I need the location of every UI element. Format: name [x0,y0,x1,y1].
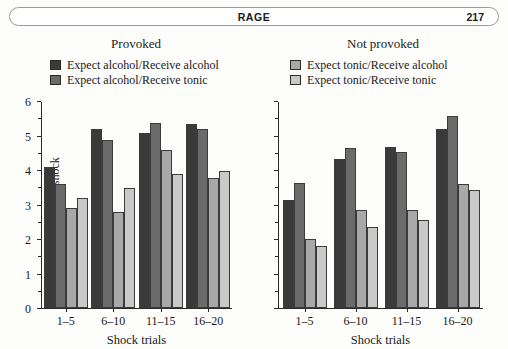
bar[interactable] [458,184,469,308]
y-tick-major [37,274,41,275]
y-tick-minor [275,187,278,188]
legend-item: Expect alcohol/Receive alcohol [50,58,219,72]
bar[interactable] [139,133,150,308]
bar[interactable] [283,200,294,308]
x-tick-label: 11–15 [146,314,176,329]
legend-item: Expect tonic/Receive tonic [290,73,448,87]
figure-bar-chart: Provoked Expect alcohol/Receive alcohol … [0,28,508,346]
bar[interactable] [418,220,429,308]
y-tick-label: 0 [25,303,31,315]
bar-group: 16–20 [436,102,480,308]
x-tick-label: 6–10 [101,314,125,329]
bar[interactable] [161,150,172,308]
y-tick-major [274,239,278,240]
x-tick-label: 11–15 [392,314,422,329]
bar[interactable] [44,167,55,308]
y-tick-minor [275,256,278,257]
x-tick [458,308,459,312]
bar-groups: 1–56–1011–1516–20 [42,102,232,308]
x-tick [66,308,67,312]
bar[interactable] [345,148,356,308]
y-tick-major [37,136,41,137]
legend-swatch-icon [50,75,61,85]
x-tick [305,308,306,312]
legend-item-label: Expect alcohol/Receive alcohol [67,58,219,72]
bar[interactable] [102,140,113,308]
bar[interactable] [356,210,367,308]
bar[interactable] [219,171,230,308]
y-tick-major [274,136,278,137]
y-tick-major [37,170,41,171]
bar-group: 6–10 [91,102,135,308]
legend-swatch-icon [290,60,301,70]
page-number: 217 [466,11,484,23]
y-tick-major [37,239,41,240]
y-tick-minor [275,291,278,292]
legend-item-label: Expect tonic/Receive alcohol [307,58,448,72]
y-tick-minor [38,187,41,188]
bar-group: 11–15 [385,102,429,308]
bar[interactable] [113,212,124,308]
bar[interactable] [77,198,88,308]
y-tick-major [274,101,278,102]
y-tick-major [274,170,278,171]
y-tick-major [274,274,278,275]
y-tick-label: 3 [25,200,31,212]
x-tick-label: 1–5 [57,314,75,329]
bar[interactable] [469,190,480,308]
legend-provoked: Expect alcohol/Receive alcohol Expect al… [50,58,219,88]
x-axis [278,308,483,309]
bar[interactable] [124,188,135,308]
x-tick [113,308,114,312]
bar[interactable] [172,174,183,308]
bar[interactable] [55,184,66,308]
y-tick-label: 4 [25,165,31,177]
y-tick-minor [275,118,278,119]
legend-item-label: Expect tonic/Receive tonic [307,73,436,87]
plot-area-provoked: Mean level of shock 0123456 1–56–1011–15… [41,102,232,309]
bar-group: 1–5 [283,102,327,308]
bar[interactable] [294,183,305,308]
bar[interactable] [334,159,345,308]
y-tick-minor [38,118,41,119]
bar[interactable] [186,124,197,308]
x-tick-label: 6–10 [344,314,368,329]
chart-panel-provoked: Provoked Expect alcohol/Receive alcohol … [0,28,254,346]
bar[interactable] [367,227,378,308]
bar[interactable] [150,123,161,308]
bar-group: 16–20 [186,102,230,308]
y-tick-major [274,308,278,309]
y-tick-major [37,308,41,309]
y-tick-major [37,101,41,102]
bar-group: 6–10 [334,102,378,308]
bar[interactable] [197,129,208,308]
bar[interactable] [305,239,316,308]
bar[interactable] [91,129,102,308]
panel-title-not-provoked: Not provoked [254,36,508,52]
x-tick [407,308,408,312]
bar[interactable] [436,129,447,308]
y-tick-major [274,205,278,206]
bar[interactable] [66,208,77,308]
x-axis-title: Shock trials [278,333,483,348]
x-axis-title: Shock trials [41,333,232,348]
running-head-bar: RAGE 217 [9,7,499,26]
y-tick-major [37,205,41,206]
legend-swatch-icon [290,75,301,85]
bar[interactable] [447,116,458,308]
bar[interactable] [316,246,327,308]
x-tick-label: 16–20 [443,314,473,329]
bar[interactable] [396,152,407,308]
legend-item: Expect tonic/Receive alcohol [290,58,448,72]
y-tick-minor [275,222,278,223]
y-tick-minor [275,153,278,154]
x-tick-label: 1–5 [296,314,314,329]
bar[interactable] [407,210,418,308]
bar-group: 1–5 [44,102,88,308]
y-tick-label: 2 [25,234,31,246]
legend-not-provoked: Expect tonic/Receive alcohol Expect toni… [290,58,448,88]
y-tick-minor [38,222,41,223]
bar[interactable] [385,147,396,308]
bar[interactable] [208,178,219,308]
y-tick-minor [38,291,41,292]
